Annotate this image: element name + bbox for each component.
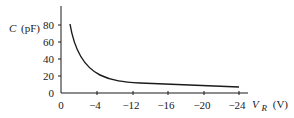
- y-tick-80: 80: [43, 19, 55, 31]
- x-tick-12: −12: [122, 99, 139, 111]
- capacitance-curve: [70, 24, 239, 87]
- y-axis-label: C (pF): [9, 22, 40, 35]
- x-tick-16: −16: [157, 99, 175, 111]
- x-axis-label: V R (V): [252, 98, 288, 113]
- y-tick-40: 40: [43, 53, 55, 65]
- y-tick-20: 20: [43, 70, 55, 82]
- x-tick-0: 0: [58, 99, 64, 111]
- x-tick-20: −20: [193, 99, 211, 111]
- x-tick-24: −24: [228, 99, 246, 111]
- y-tick-60: 60: [43, 36, 55, 48]
- capacitance-chart: 0 20 40 60 80 0 −4 −12 −16 −20 −24 C (pF…: [0, 0, 294, 118]
- x-tick-4: −4: [89, 99, 101, 111]
- y-tick-0: 0: [49, 87, 55, 99]
